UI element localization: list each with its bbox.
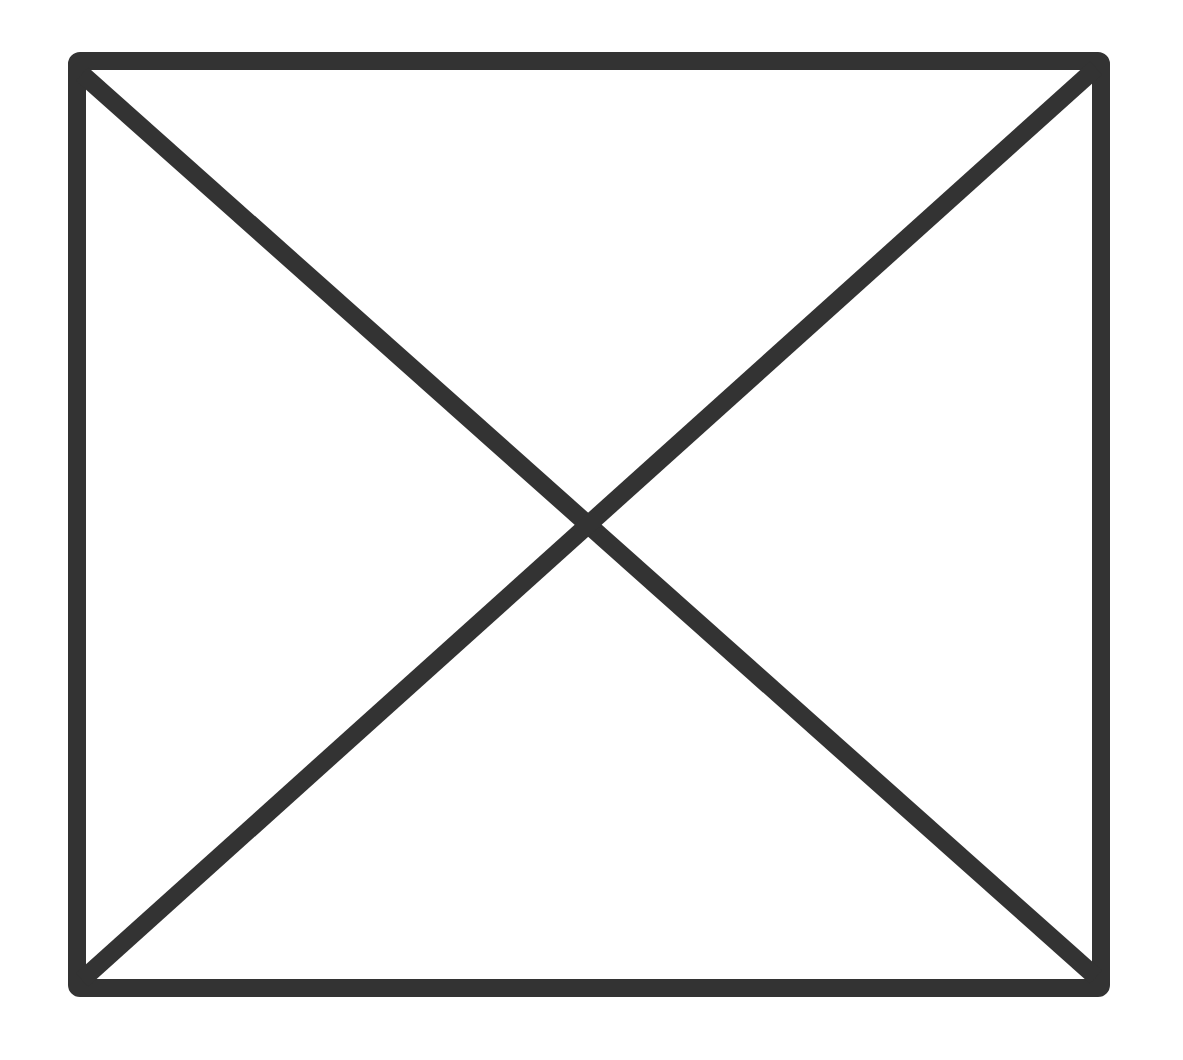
crossed-box-diagram — [0, 0, 1183, 1060]
